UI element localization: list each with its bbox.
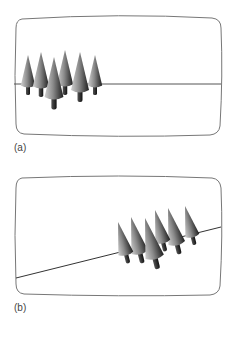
scene-a — [0, 0, 237, 150]
panel-b: (b) — [0, 170, 237, 339]
panel-label-a: (a) — [14, 142, 26, 153]
scene-b — [0, 170, 237, 305]
panel-label-b: (b) — [14, 302, 26, 313]
tree-group — [111, 204, 202, 271]
tree-group — [21, 50, 102, 110]
panel-a: (a) — [0, 0, 237, 170]
